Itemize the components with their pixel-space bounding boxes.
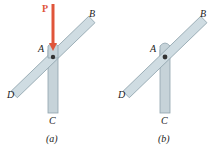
label-d: D [6, 89, 15, 100]
pin-a-icon [51, 55, 55, 59]
force-arrow-p [49, 4, 57, 51]
caption-a: (a) [46, 133, 58, 145]
label-a: A [149, 43, 157, 54]
label-d: D [117, 89, 126, 100]
label-b: B [89, 8, 95, 19]
label-a: A [37, 43, 45, 54]
figure-a: P A B C D (a) [6, 3, 95, 145]
label-p: P [42, 3, 48, 14]
pin-a-icon [163, 55, 168, 60]
label-b: B [200, 8, 206, 19]
label-c: C [49, 115, 56, 126]
caption-b: (b) [158, 133, 170, 145]
figure-b: A B C D (b) [117, 8, 207, 145]
label-c: C [161, 115, 168, 126]
